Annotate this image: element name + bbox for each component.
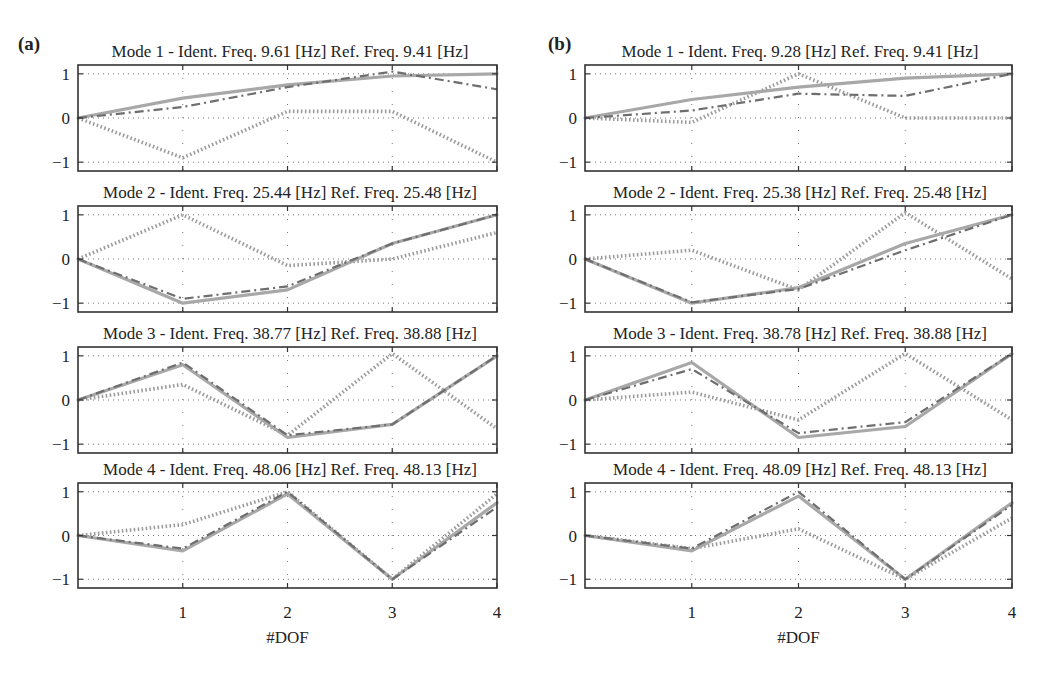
series-dotted-line [78, 111, 497, 162]
subplot-title: Mode 3 - Ident. Freq. 38.78 [Hz] Ref. Fr… [613, 324, 987, 343]
subplot-title: Mode 1 - Ident. Freq. 9.61 [Hz] Ref. Fre… [112, 42, 469, 61]
series-dotted-line [78, 215, 497, 266]
subplot-b-mode-3: Mode 3 - Ident. Freq. 38.78 [Hz] Ref. Fr… [559, 324, 1012, 454]
y-tick-label: 0 [569, 250, 578, 269]
x-tick-label: 4 [493, 603, 502, 622]
y-tick-label: 0 [569, 109, 578, 128]
x-tick-label: 1 [688, 603, 697, 622]
x-tick-label: 1 [179, 603, 188, 622]
y-tick-label: 0 [62, 109, 71, 128]
subplot-b-mode-1: (b)Mode 1 - Ident. Freq. 9.28 [Hz] Ref. … [548, 33, 1012, 172]
y-tick-label: −1 [52, 570, 70, 589]
subplot-b-mode-2: Mode 2 - Ident. Freq. 25.38 [Hz] Ref. Fr… [559, 183, 1012, 313]
y-tick-label: 1 [62, 347, 71, 366]
y-tick-label: 0 [62, 250, 71, 269]
series-dotted-line [78, 354, 497, 436]
panel-label: (a) [18, 33, 40, 55]
x-tick-label: 4 [1008, 603, 1017, 622]
x-axis-label: #DOF [777, 628, 820, 647]
y-tick-label: 1 [569, 206, 578, 225]
y-tick-label: 0 [62, 527, 71, 546]
y-tick-label: 1 [62, 483, 71, 502]
series-dotted-line [585, 74, 1012, 123]
subplot-a-mode-1: (a)Mode 1 - Ident. Freq. 9.61 [Hz] Ref. … [18, 33, 497, 172]
y-tick-label: −1 [52, 294, 70, 313]
y-tick-label: −1 [559, 294, 577, 313]
subplot-b-mode-4: Mode 4 - Ident. Freq. 48.09 [Hz] Ref. Fr… [559, 460, 1017, 647]
series-solid-line [78, 494, 497, 579]
subplot-title: Mode 2 - Ident. Freq. 25.44 [Hz] Ref. Fr… [103, 183, 477, 202]
y-tick-label: 1 [569, 483, 578, 502]
x-tick-label: 2 [283, 603, 292, 622]
y-tick-label: 0 [569, 391, 578, 410]
y-tick-label: −1 [559, 153, 577, 172]
x-tick-label: 2 [794, 603, 803, 622]
figure-canvas: (a)Mode 1 - Ident. Freq. 9.61 [Hz] Ref. … [0, 0, 1059, 674]
y-tick-label: 0 [569, 527, 578, 546]
subplot-title: Mode 4 - Ident. Freq. 48.09 [Hz] Ref. Fr… [613, 460, 987, 479]
subplot-a-mode-3: Mode 3 - Ident. Freq. 38.77 [Hz] Ref. Fr… [52, 324, 497, 454]
y-tick-label: 1 [62, 65, 71, 84]
y-tick-label: 1 [569, 347, 578, 366]
subplot-title: Mode 2 - Ident. Freq. 25.38 [Hz] Ref. Fr… [613, 183, 987, 202]
series-solid-line [585, 74, 1012, 118]
subplot-title: Mode 1 - Ident. Freq. 9.28 [Hz] Ref. Fre… [622, 42, 979, 61]
y-tick-label: −1 [559, 435, 577, 454]
y-tick-label: 0 [62, 391, 71, 410]
y-tick-label: −1 [52, 435, 70, 454]
series-dotted-line [585, 213, 1012, 290]
mode-shapes-figure: (a)Mode 1 - Ident. Freq. 9.61 [Hz] Ref. … [0, 0, 1059, 674]
x-tick-label: 3 [388, 603, 397, 622]
y-tick-label: 1 [62, 206, 71, 225]
x-axis-label: #DOF [266, 628, 309, 647]
y-tick-label: −1 [52, 153, 70, 172]
y-tick-label: 1 [569, 65, 578, 84]
subplot-title: Mode 3 - Ident. Freq. 38.77 [Hz] Ref. Fr… [103, 324, 477, 343]
x-tick-label: 3 [901, 603, 910, 622]
y-tick-label: −1 [559, 570, 577, 589]
subplot-title: Mode 4 - Ident. Freq. 48.06 [Hz] Ref. Fr… [103, 460, 477, 479]
subplot-a-mode-4: Mode 4 - Ident. Freq. 48.06 [Hz] Ref. Fr… [52, 460, 502, 647]
panel-label: (b) [548, 33, 571, 55]
subplot-a-mode-2: Mode 2 - Ident. Freq. 25.44 [Hz] Ref. Fr… [52, 183, 497, 313]
series-solid-line [585, 496, 1012, 579]
series-dashdot-line [585, 74, 1012, 118]
